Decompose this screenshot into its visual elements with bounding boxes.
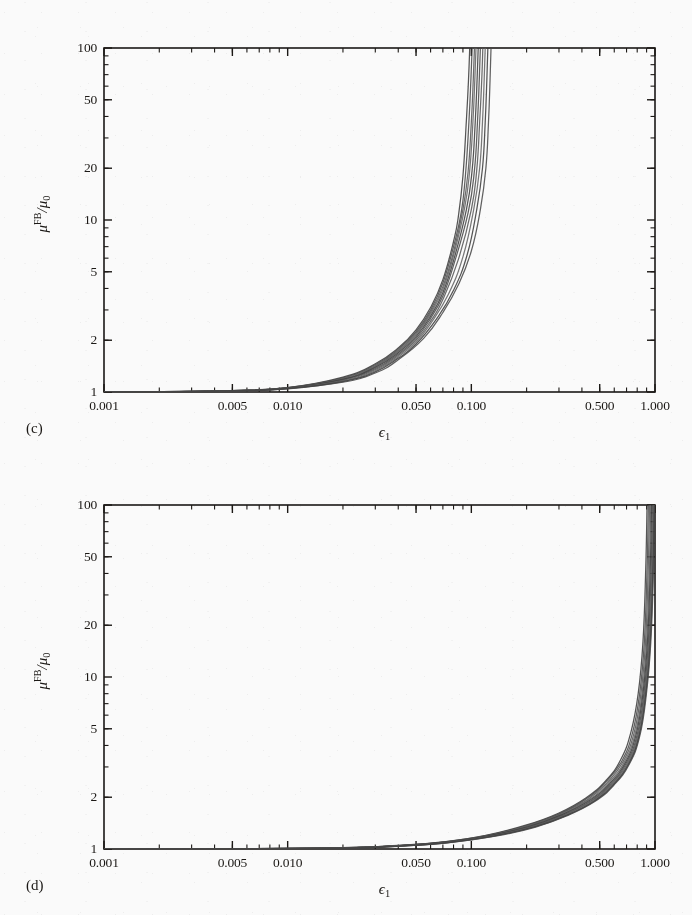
y-tick-label: 5 <box>90 264 97 280</box>
y-tick-label: 50 <box>84 549 97 565</box>
x-tick-label: 0.050 <box>401 398 430 414</box>
curve-line <box>104 498 654 849</box>
y-tick-label: 5 <box>90 721 97 737</box>
y-tick-label: 1 <box>90 841 97 857</box>
curve-line <box>104 498 653 849</box>
x-axis-subscript: 1 <box>385 431 390 442</box>
y-axis-subscript: 0 <box>41 653 52 658</box>
curve-line <box>104 44 483 392</box>
x-tick-label: 0.100 <box>457 855 486 871</box>
x-tick-label: 1.000 <box>640 855 669 871</box>
y-axis-denominator: /μ <box>34 201 50 213</box>
panel-letter: (c) <box>26 420 43 437</box>
x-tick-label: 1.000 <box>640 398 669 414</box>
curve-line <box>104 498 655 849</box>
panel-letter: (d) <box>26 877 44 894</box>
y-axis-subscript: 0 <box>41 196 52 201</box>
y-tick-label: 10 <box>84 212 97 228</box>
curve-bundle <box>104 44 491 392</box>
x-axis-title: ϵ1 <box>379 881 390 899</box>
x-tick-label: 0.001 <box>89 855 118 871</box>
curve-line <box>104 498 647 849</box>
plot-panel-d: 0.0010.0050.0100.0500.1000.5001.00012510… <box>0 457 692 915</box>
y-axis-title: μFB/μ0 <box>32 653 51 690</box>
y-tick-label: 10 <box>84 669 97 685</box>
y-tick-label: 20 <box>84 160 97 176</box>
y-tick-label: 1 <box>90 384 97 400</box>
curve-line <box>104 498 653 849</box>
y-tick-label: 100 <box>77 40 97 56</box>
x-tick-label: 0.500 <box>585 398 614 414</box>
x-tick-label: 0.005 <box>218 398 247 414</box>
y-axis-mu-symbol: μ <box>34 225 50 233</box>
y-axis-superscript: FB <box>32 669 43 681</box>
y-tick-label: 100 <box>77 497 97 513</box>
curve-line <box>104 44 488 392</box>
y-axis-denominator: /μ <box>34 658 50 670</box>
curve-line <box>104 498 652 849</box>
curve-line <box>104 498 654 849</box>
x-axis-title: ϵ1 <box>379 424 390 442</box>
y-axis-superscript: FB <box>32 212 43 224</box>
x-tick-label: 0.010 <box>273 855 302 871</box>
x-axis-subscript: 1 <box>385 888 390 899</box>
x-tick-label: 0.010 <box>273 398 302 414</box>
y-tick-label: 2 <box>90 332 97 348</box>
curve-bundle <box>104 498 655 849</box>
curve-line <box>104 498 651 849</box>
curve-line <box>104 44 480 392</box>
plot-frame <box>104 48 655 392</box>
x-tick-label: 0.050 <box>401 855 430 871</box>
x-tick-label: 0.500 <box>585 855 614 871</box>
plot-canvas <box>0 0 692 458</box>
plot-panel-c: 0.0010.0050.0100.0500.1000.5001.00012510… <box>0 0 692 458</box>
x-tick-label: 0.005 <box>218 855 247 871</box>
figure-root: 0.0010.0050.0100.0500.1000.5001.00012510… <box>0 0 692 915</box>
curve-line <box>104 44 491 392</box>
axis-ticks <box>104 48 655 392</box>
y-axis-title: μFB/μ0 <box>32 196 51 233</box>
curve-line <box>104 44 485 392</box>
y-tick-label: 50 <box>84 92 97 108</box>
curve-line <box>104 498 648 849</box>
y-axis-mu-symbol: μ <box>34 682 50 690</box>
x-tick-label: 0.100 <box>457 398 486 414</box>
y-tick-label: 2 <box>90 789 97 805</box>
plot-canvas <box>0 457 692 915</box>
curve-line <box>104 498 650 849</box>
plot-frame <box>104 505 655 849</box>
axis-ticks <box>104 505 655 849</box>
y-tick-label: 20 <box>84 617 97 633</box>
x-tick-label: 0.001 <box>89 398 118 414</box>
